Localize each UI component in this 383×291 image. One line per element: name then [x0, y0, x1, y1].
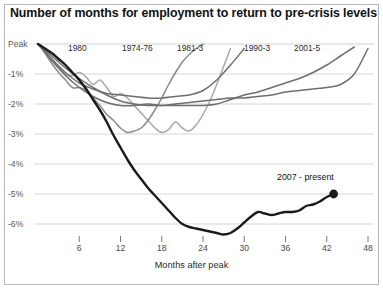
gridlines — [34, 44, 374, 224]
series-line-1974-76 — [38, 44, 203, 133]
end-marker-dot — [329, 190, 338, 199]
x-axis-label: 36 — [281, 243, 291, 253]
series-line-1980 — [38, 44, 231, 133]
y-axis-label: -4% — [8, 159, 23, 169]
series-line-2007-present — [38, 44, 334, 235]
y-axis-label: -6% — [8, 219, 23, 229]
series-line-2001-5 — [38, 44, 354, 106]
series-label-1974-76: 1974-76 — [122, 43, 153, 53]
x-axis-label: 42 — [322, 243, 332, 253]
series-label-1990-3: 1990-3 — [244, 43, 270, 53]
x-axis-label: 48 — [363, 243, 373, 253]
y-axis-label: -1% — [8, 69, 23, 79]
y-axis-label: -2% — [8, 99, 23, 109]
x-axis-label: 6 — [77, 243, 82, 253]
x-axis-label: 30 — [239, 243, 249, 253]
y-axis-label: Peak — [8, 39, 28, 49]
series-label-2001-5: 2001-5 — [294, 43, 320, 53]
annotation-2007-present: 2007 - present — [277, 172, 334, 182]
series-lines — [38, 44, 368, 235]
x-axis-label: 24 — [198, 243, 208, 253]
series-line-1981-3 — [38, 44, 368, 106]
y-axis-label: -3% — [8, 129, 23, 139]
y-axis-label: -5% — [8, 189, 23, 199]
x-tick-marks — [79, 236, 368, 242]
chart-figure: Number of months for employment to retur… — [0, 0, 383, 291]
series-label-1981-3: 1981-3 — [177, 43, 203, 53]
series-end-markers — [329, 190, 338, 199]
x-axis-label: 18 — [157, 243, 167, 253]
x-axis-caption: Months after peak — [0, 260, 383, 270]
series-label-1980: 1980 — [68, 43, 87, 53]
x-axis-label: 12 — [116, 243, 126, 253]
